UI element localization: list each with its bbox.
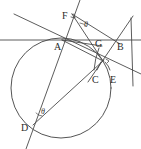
angle-label-theta-F: θ [84,21,88,29]
point-label-D: D [21,123,28,133]
line-BP [131,18,133,86]
angle-label-theta-D: θ [41,108,45,116]
line-FD [26,0,80,149]
point-label-B: B [117,42,124,52]
point-label-A: A [54,42,61,52]
point-label-C: C [92,75,99,85]
point-label-G: G [95,39,102,49]
geometry-figure: A B C D E F G θ θ [0,0,141,149]
point-label-E: E [110,75,116,85]
right-angle-P-icon [106,59,109,63]
point-label-F: F [62,11,68,21]
